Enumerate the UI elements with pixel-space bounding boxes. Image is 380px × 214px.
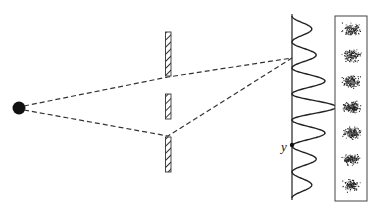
detection-dot bbox=[356, 101, 357, 102]
detection-dot bbox=[357, 105, 358, 106]
detection-dot bbox=[347, 128, 348, 129]
detection-dot bbox=[356, 107, 357, 108]
detection-dot bbox=[346, 81, 347, 82]
detection-dot bbox=[346, 28, 347, 29]
detection-dot bbox=[353, 101, 354, 102]
detection-dot bbox=[358, 76, 359, 77]
detection-dot bbox=[349, 61, 350, 62]
detection-dot bbox=[356, 112, 357, 113]
barrier-middle bbox=[166, 94, 172, 119]
detection-dot bbox=[361, 52, 362, 53]
detection-dot bbox=[351, 77, 352, 78]
detection-dot bbox=[349, 56, 350, 57]
detection-dot bbox=[358, 106, 359, 107]
detection-dot bbox=[347, 80, 348, 81]
detection-dot bbox=[351, 51, 352, 52]
detection-dot bbox=[353, 180, 354, 181]
detection-dot bbox=[344, 55, 345, 56]
barrier bbox=[166, 32, 172, 172]
detection-dot bbox=[349, 81, 350, 82]
detection-dot bbox=[354, 84, 355, 85]
detection-dot bbox=[347, 132, 348, 133]
detection-dot bbox=[356, 135, 357, 136]
detection-dot bbox=[347, 26, 348, 27]
detection-dot bbox=[353, 75, 354, 76]
detection-dot bbox=[353, 62, 354, 63]
detection-dot bbox=[358, 80, 359, 81]
detection-dot bbox=[360, 135, 361, 136]
detection-dot bbox=[356, 190, 357, 191]
ray-paths bbox=[24, 58, 292, 136]
detection-dot bbox=[344, 161, 345, 162]
detection-dot bbox=[353, 88, 354, 89]
detection-dot bbox=[351, 87, 352, 88]
detection-dot bbox=[355, 106, 356, 107]
detection-dot bbox=[350, 23, 351, 24]
detection-dot bbox=[356, 130, 357, 131]
detection-dot bbox=[344, 133, 345, 134]
detection-dot bbox=[356, 83, 357, 84]
detection-dot bbox=[344, 105, 345, 106]
detection-dot bbox=[345, 182, 346, 183]
detection-dot bbox=[355, 160, 356, 161]
detection-dot bbox=[345, 129, 346, 130]
detection-dot bbox=[350, 190, 351, 191]
detection-dot bbox=[345, 189, 346, 190]
detection-dot bbox=[347, 157, 348, 158]
detection-dot bbox=[351, 76, 352, 77]
detection-dot bbox=[359, 29, 360, 30]
detection-dot bbox=[357, 108, 358, 109]
detection-dot bbox=[351, 53, 352, 54]
detection-dot bbox=[351, 54, 352, 55]
detection-dot bbox=[352, 31, 353, 32]
detection-dot bbox=[348, 189, 349, 190]
detection-dot bbox=[354, 132, 355, 133]
detection-dot bbox=[352, 102, 353, 103]
detection-dot bbox=[349, 25, 350, 26]
detection-dot bbox=[347, 134, 348, 135]
detection-dot bbox=[360, 54, 361, 55]
detection-dot bbox=[348, 179, 349, 180]
detection-dot bbox=[358, 60, 359, 61]
detection-dot bbox=[346, 58, 347, 59]
detection-dot bbox=[352, 106, 353, 107]
detection-dot bbox=[342, 186, 343, 187]
detection-dot bbox=[356, 134, 357, 135]
detection-dot bbox=[347, 85, 348, 86]
detection-dot bbox=[354, 50, 355, 51]
detection-dot bbox=[354, 131, 355, 132]
detection-dot bbox=[350, 112, 351, 113]
detection-dot bbox=[357, 81, 358, 82]
detection-dot bbox=[343, 130, 344, 131]
detection-dot bbox=[352, 109, 353, 110]
detection-dot bbox=[342, 82, 343, 83]
detection-dot bbox=[351, 137, 352, 138]
detection-dot bbox=[351, 110, 352, 111]
lower-ray-path bbox=[24, 58, 292, 136]
detection-dot bbox=[358, 78, 359, 79]
detection-dot bbox=[344, 83, 345, 84]
detection-dot bbox=[354, 128, 355, 129]
detection-dot bbox=[356, 28, 357, 29]
detection-dot bbox=[352, 130, 353, 131]
detection-dot bbox=[357, 163, 358, 164]
detection-dot bbox=[354, 158, 355, 159]
detection-dot bbox=[349, 179, 350, 180]
detection-dot bbox=[352, 81, 353, 82]
detection-dot bbox=[354, 188, 355, 189]
detection-dot bbox=[353, 110, 354, 111]
detection-dot bbox=[345, 61, 346, 62]
detection-dot bbox=[352, 25, 353, 26]
detection-dot bbox=[355, 24, 356, 25]
detection-dot bbox=[348, 182, 349, 183]
detection-dot bbox=[350, 106, 351, 107]
detection-dot bbox=[357, 30, 358, 31]
detection-dot bbox=[352, 104, 353, 105]
detection-dot bbox=[350, 57, 351, 58]
detection-dot bbox=[355, 183, 356, 184]
detection-dot bbox=[347, 103, 348, 104]
detection-dot bbox=[353, 131, 354, 132]
detection-dot bbox=[344, 110, 345, 111]
detection-dot bbox=[353, 79, 354, 80]
detection-dot bbox=[353, 112, 354, 113]
